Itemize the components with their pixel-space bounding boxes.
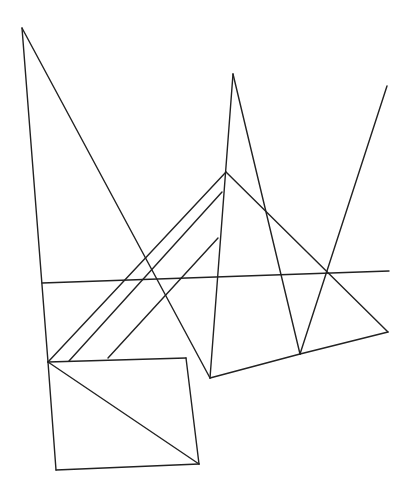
left-apex-right-edge (22, 28, 210, 378)
parallel-line-2 (108, 238, 218, 358)
quad-top (48, 358, 186, 362)
parallel-line-1 (69, 192, 222, 361)
center-spike-right-edge (233, 74, 300, 354)
quad-diagonal (48, 362, 199, 464)
left-apex-left-edge (22, 28, 48, 362)
quad-right (186, 358, 199, 464)
pyramid-right-edge (226, 172, 388, 332)
pyramid-left-edge (48, 172, 226, 362)
quad-bottom (56, 464, 199, 470)
bottom-edge-left (210, 354, 300, 378)
center-spike-left-edge (210, 74, 233, 378)
quad-left (48, 362, 56, 470)
geometric-line-diagram (0, 0, 409, 499)
right-spike-edge (300, 86, 387, 354)
bottom-edge-right (300, 332, 388, 354)
